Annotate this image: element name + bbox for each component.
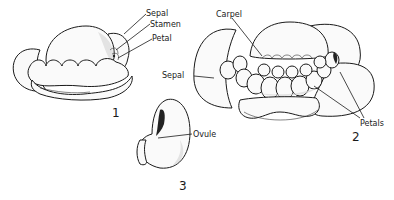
fig2-label-petals: Petals <box>360 119 384 128</box>
figure-2-open-flower: Carpel Sepal Petals 2 <box>162 10 384 144</box>
flower-anatomy-diagram: Sepal Stamen Petal 1 <box>0 0 394 200</box>
figure-3-carpel: Ovule 3 <box>137 99 216 193</box>
fig2-label-carpel: Carpel <box>216 10 242 19</box>
fig1-label-stamen: Stamen <box>150 20 181 29</box>
fig1-number: 1 <box>112 106 120 120</box>
fig1-label-petal: Petal <box>152 34 172 43</box>
fig3-label-ovule: Ovule <box>193 130 216 139</box>
fig1-label-sepal: Sepal <box>146 9 168 18</box>
figure-1-bud: Sepal Stamen Petal 1 <box>13 9 181 120</box>
fig3-stigma <box>137 140 147 165</box>
fig3-number: 3 <box>179 179 187 193</box>
fig2-label-sepal: Sepal <box>162 71 184 80</box>
fig2-number: 2 <box>352 130 360 144</box>
fig3-carpel-body <box>140 99 190 168</box>
fig1-sepal-leader <box>124 14 146 34</box>
fig2-petal-front <box>239 97 320 119</box>
